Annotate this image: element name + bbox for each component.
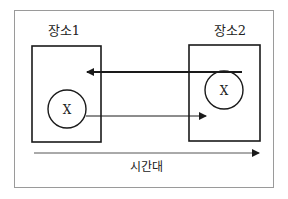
diagram-canvas: 장소1 X 장소2 X 시간대 <box>0 0 288 199</box>
place-1-label: 장소1 <box>48 23 80 38</box>
place-1-entity-label: X <box>63 103 72 117</box>
place-2: 장소2 X <box>189 23 260 141</box>
place-2-label: 장소2 <box>214 23 246 38</box>
place-2-entity-label: X <box>220 84 229 98</box>
timeline-label: 시간대 <box>130 160 163 174</box>
place-1: 장소1 X <box>32 23 101 142</box>
